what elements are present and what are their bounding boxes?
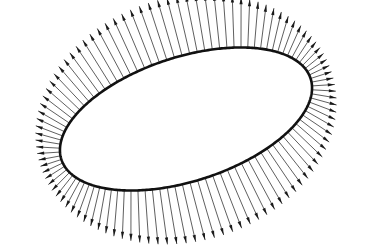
normal-vector-arrowhead <box>222 0 225 2</box>
figure-canvas <box>0 0 370 248</box>
normal-field-diagram <box>0 0 370 248</box>
